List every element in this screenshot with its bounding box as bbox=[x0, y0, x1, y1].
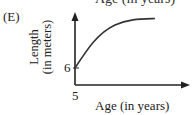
chart-plot bbox=[0, 0, 193, 115]
y-axis-arrow-icon bbox=[72, 12, 79, 21]
data-curve bbox=[75, 19, 155, 69]
x-axis-arrow-icon bbox=[181, 82, 190, 89]
